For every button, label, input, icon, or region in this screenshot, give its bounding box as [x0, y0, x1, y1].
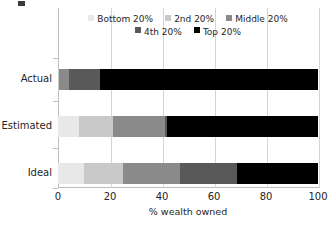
x-tick-label: 40	[147, 191, 177, 202]
legend-item[interactable]: Top 20%	[194, 25, 241, 38]
x-tick-label: 80	[251, 191, 281, 202]
y-tick-mark	[53, 188, 58, 189]
stacked-bar-chart: Bottom 20%2nd 20%Middle 20%4th 20%Top 20…	[0, 0, 331, 233]
bar-row	[0, 163, 331, 184]
y-tick-mark	[53, 101, 58, 102]
legend-swatch-icon	[194, 27, 200, 33]
bar-segment[interactable]	[84, 163, 123, 184]
legend-item[interactable]: Middle 20%	[226, 12, 288, 25]
legend-item[interactable]: Bottom 20%	[88, 12, 153, 25]
x-tick-label: 0	[43, 191, 73, 202]
x-axis-title: % wealth owned	[58, 206, 318, 217]
bar-segment[interactable]	[58, 163, 84, 184]
legend-row: 4th 20%Top 20%	[58, 25, 318, 38]
legend-swatch-icon	[226, 15, 232, 21]
legend-row: Bottom 20%2nd 20%Middle 20%	[58, 12, 318, 25]
bar-row	[0, 116, 331, 137]
bar-row	[0, 69, 331, 90]
legend-label: Bottom 20%	[97, 14, 153, 24]
x-axis-tick-labels: 020406080100	[0, 191, 331, 205]
legend-swatch-icon	[165, 15, 171, 21]
bar-segment[interactable]	[79, 116, 113, 137]
x-axis-line	[59, 187, 319, 188]
legend-label: Middle 20%	[235, 14, 288, 24]
bar-segment[interactable]	[167, 116, 318, 137]
gridline	[319, 8, 320, 188]
bar-segment[interactable]	[180, 163, 237, 184]
bar-segment[interactable]	[123, 163, 180, 184]
bar-segment[interactable]	[58, 116, 79, 137]
legend-swatch-icon	[135, 27, 141, 33]
legend-label: 2nd 20%	[174, 14, 214, 24]
bar-segment[interactable]	[100, 69, 318, 90]
legend-item[interactable]: 2nd 20%	[165, 12, 214, 25]
x-tick-label: 60	[199, 191, 229, 202]
legend-swatch-icon	[88, 15, 94, 21]
bar-segment[interactable]	[59, 69, 69, 90]
bar-segment[interactable]	[237, 163, 318, 184]
y-tick-mark	[53, 148, 58, 149]
y-tick-mark	[53, 58, 58, 59]
legend-label: Top 20%	[203, 26, 241, 36]
legend-label: 4th 20%	[144, 26, 182, 36]
legend-item[interactable]: 4th 20%	[135, 25, 182, 38]
cropped-title-fragment	[18, 1, 25, 6]
bar-segment[interactable]	[69, 69, 99, 90]
bar-segment[interactable]	[113, 116, 165, 137]
x-tick-label: 20	[95, 191, 125, 202]
chart-legend: Bottom 20%2nd 20%Middle 20%4th 20%Top 20…	[58, 12, 318, 37]
x-tick-label: 100	[303, 191, 331, 202]
